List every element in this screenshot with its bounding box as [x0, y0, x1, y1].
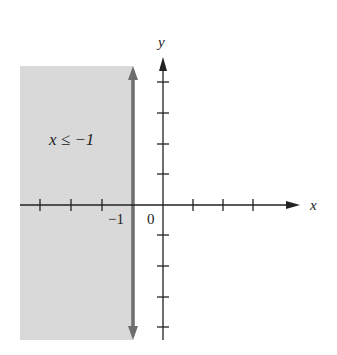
x-axis-label: x [309, 197, 317, 213]
y-axis-arrow-icon [159, 57, 167, 71]
x-tick-label-neg-one: −1 [108, 211, 124, 227]
y-axis-label: y [156, 34, 165, 50]
inequality-label: x ≤ −1 [48, 130, 94, 149]
x-axis-arrow-icon [286, 201, 300, 209]
shaded-region [20, 66, 133, 340]
inequality-graph: y x 0 −1 x ≤ −1 [0, 0, 337, 355]
y-axis [157, 57, 169, 340]
origin-label: 0 [147, 211, 155, 227]
